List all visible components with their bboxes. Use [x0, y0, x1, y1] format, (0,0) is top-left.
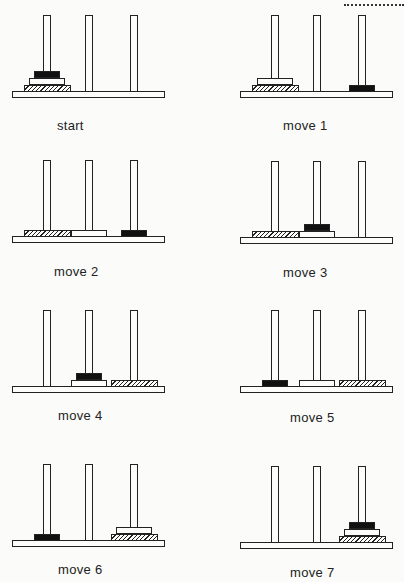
- disk-small: [262, 380, 288, 387]
- peg-right: [130, 160, 138, 237]
- peg-middle: [313, 15, 321, 92]
- peg-right: [130, 15, 138, 92]
- peg-middle: [85, 464, 93, 541]
- peg-middle: [85, 160, 93, 237]
- panel-label: move 4: [58, 408, 102, 423]
- disk-small: [121, 230, 147, 237]
- disk-small: [349, 522, 375, 529]
- panel-label: move 7: [290, 565, 334, 580]
- disk-small: [34, 534, 60, 541]
- base-board: [240, 542, 393, 549]
- peg-left: [43, 160, 51, 237]
- panel-label: move 3: [283, 265, 327, 280]
- peg-middle: [313, 466, 321, 543]
- peg-right: [358, 15, 366, 92]
- disk-medium: [299, 231, 335, 238]
- disk-large: [24, 85, 71, 92]
- peg-left: [43, 464, 51, 541]
- disk-small: [304, 224, 330, 231]
- disk-large: [252, 85, 299, 92]
- disk-medium: [344, 529, 380, 536]
- disk-medium: [257, 78, 293, 85]
- base-board: [12, 540, 165, 547]
- disk-small: [349, 85, 375, 92]
- peg-right: [358, 161, 366, 238]
- peg-right: [358, 310, 366, 387]
- panel-label: move 1: [283, 118, 327, 133]
- disk-small: [34, 71, 60, 78]
- disk-medium: [299, 380, 335, 387]
- disk-small: [76, 373, 102, 380]
- panel-label: start: [57, 118, 84, 133]
- disk-large: [111, 534, 158, 541]
- peg-right: [130, 310, 138, 387]
- disk-medium: [116, 527, 152, 534]
- base-board: [12, 386, 165, 393]
- base-board: [12, 91, 165, 98]
- disk-large: [339, 536, 386, 543]
- base-board: [12, 236, 165, 243]
- panel-label: move 6: [58, 562, 102, 577]
- peg-left: [271, 466, 279, 543]
- peg-left: [43, 310, 51, 387]
- peg-left: [271, 161, 279, 238]
- disk-large: [111, 380, 158, 387]
- base-board: [240, 237, 393, 244]
- disk-medium: [71, 380, 107, 387]
- peg-middle: [313, 310, 321, 387]
- disk-medium: [71, 230, 107, 237]
- panel-label: move 5: [290, 410, 334, 425]
- peg-middle: [85, 15, 93, 92]
- base-board: [240, 91, 393, 98]
- peg-left: [271, 310, 279, 387]
- disk-large: [252, 231, 299, 238]
- disk-large: [24, 230, 71, 237]
- disk-large: [339, 380, 386, 387]
- disk-medium: [29, 78, 65, 85]
- panel-label: move 2: [54, 264, 98, 279]
- base-board: [240, 386, 393, 393]
- topright-mark: [344, 0, 404, 6]
